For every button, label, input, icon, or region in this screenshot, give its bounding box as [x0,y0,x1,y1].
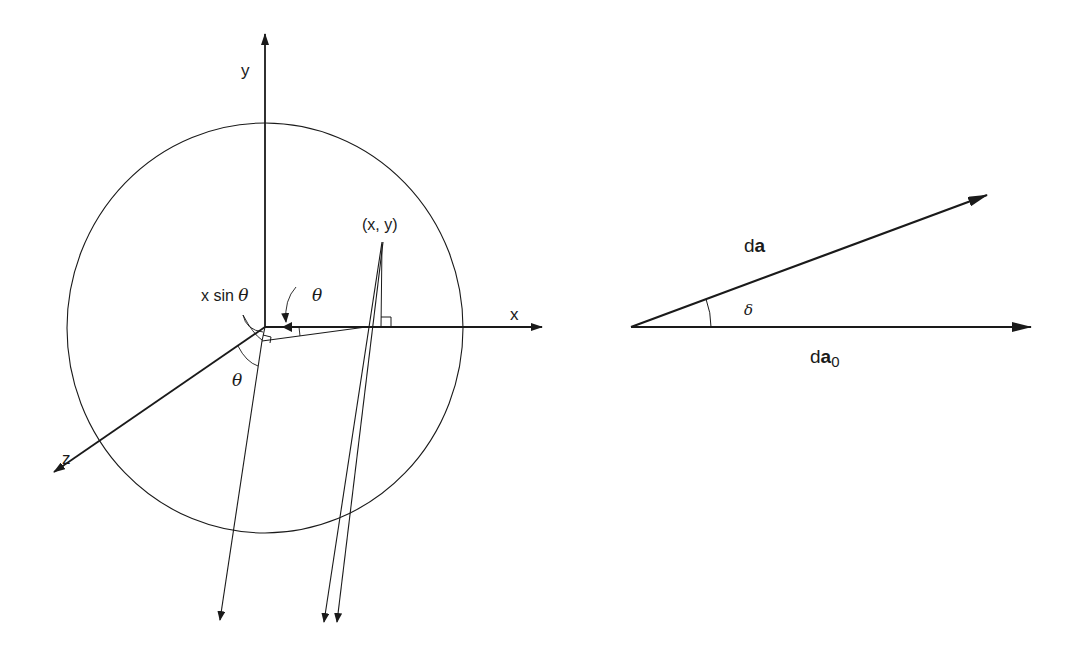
z-axis [54,327,265,472]
right-angle-mark-x-axis [381,317,391,327]
right-angle-mark-origin [263,335,271,343]
ray-point-right [337,242,383,622]
right-panel: δ da da0 [631,195,1031,370]
wedge-segment [262,327,366,341]
vector-da-label: da [744,235,766,256]
theta-label-upper: θ [312,285,322,305]
delta-label: δ [744,301,753,319]
figure-canvas: y x z (x, y) x sin θ θ [0,0,1070,660]
vector-da [631,195,987,327]
delta-angle-arc [706,299,711,327]
point-xy-label: (x, y) [362,216,398,233]
theta-lower-arc [238,346,258,366]
y-axis-label: y [241,61,250,80]
theta-upper-pointer [286,287,296,322]
x-sin-theta-label: x sin θ [201,285,249,305]
theta-label-lower: θ [232,370,242,390]
ray-point-left [324,242,382,622]
x-axis-inward-arrowhead [282,322,292,332]
z-axis-label: z [62,449,71,468]
left-panel: y x z (x, y) x sin θ θ [54,34,542,622]
vector-da0-label: da0 [810,346,840,370]
x-axis-label: x [510,305,519,324]
wedge-angle-tick [299,327,300,336]
